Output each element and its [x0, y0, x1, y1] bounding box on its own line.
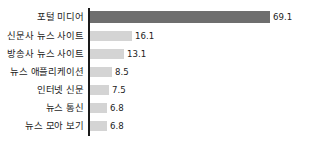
- bar-group: 13.1: [90, 45, 146, 62]
- table-row: 뉴스 통신 6.8: [0, 99, 316, 116]
- value-label: 13.1: [127, 49, 146, 59]
- bar-group: 16.1: [90, 27, 154, 44]
- value-label: 69.1: [273, 12, 292, 22]
- value-label: 6.8: [110, 121, 124, 131]
- value-axis-line: [88, 8, 90, 136]
- table-row: 뉴스 모아 보기 6.8: [0, 117, 316, 134]
- bar[interactable]: [90, 49, 124, 59]
- bar-group: 7.5: [90, 81, 126, 98]
- bar-group: 6.8: [90, 99, 124, 116]
- bar[interactable]: [90, 11, 270, 23]
- bar-group: 8.5: [90, 63, 129, 80]
- value-label: 7.5: [112, 85, 126, 95]
- bar[interactable]: [90, 67, 112, 77]
- bar-group: 6.8: [90, 117, 124, 134]
- value-label: 6.8: [110, 103, 124, 113]
- bar[interactable]: [90, 85, 109, 95]
- category-label: 포털 미디어: [0, 11, 84, 23]
- value-label: 8.5: [115, 67, 129, 77]
- plot-area: 포털 미디어 69.1 신문사 뉴스 사이트 16.1 방송사 뉴스 사이트 1…: [0, 5, 316, 138]
- bar[interactable]: [90, 121, 107, 131]
- horizontal-bar-chart: 포털 미디어 69.1 신문사 뉴스 사이트 16.1 방송사 뉴스 사이트 1…: [0, 0, 316, 143]
- bar-group: 69.1: [90, 8, 292, 25]
- category-label: 뉴스 통신: [0, 102, 84, 114]
- bar[interactable]: [90, 103, 107, 113]
- table-row: 방송사 뉴스 사이트 13.1: [0, 45, 316, 62]
- table-row: 인터넷 신문 7.5: [0, 81, 316, 98]
- table-row: 포털 미디어 69.1: [0, 8, 316, 25]
- category-label: 인터넷 신문: [0, 84, 84, 96]
- category-label: 뉴스 애플리케이션: [0, 66, 84, 78]
- category-label: 방송사 뉴스 사이트: [0, 48, 84, 60]
- category-label: 신문사 뉴스 사이트: [0, 30, 84, 42]
- value-label: 16.1: [135, 31, 154, 41]
- category-label: 뉴스 모아 보기: [0, 120, 84, 132]
- table-row: 신문사 뉴스 사이트 16.1: [0, 27, 316, 44]
- table-row: 뉴스 애플리케이션 8.5: [0, 63, 316, 80]
- bar[interactable]: [90, 31, 132, 41]
